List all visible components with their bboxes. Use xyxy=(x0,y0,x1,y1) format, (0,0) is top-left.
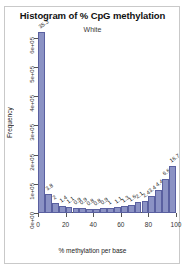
chart-screenshot: Histogram of % CpG methylation White Fre… xyxy=(0,0,185,275)
y-tick-label: 3e+05 xyxy=(29,124,35,141)
y-tick-label: 0e+00 xyxy=(29,212,35,229)
x-tick-mark xyxy=(148,213,149,217)
x-tick-mark xyxy=(176,213,177,217)
histogram-bar xyxy=(107,208,114,213)
histogram-bar xyxy=(155,190,162,213)
histogram-bar xyxy=(162,179,169,213)
histogram-bar xyxy=(148,196,155,213)
y-tick-label: 2e+05 xyxy=(29,154,35,171)
x-tick-label: 100 xyxy=(171,221,182,228)
y-tick-label: 6e+05 xyxy=(29,37,35,54)
x-tick-mark xyxy=(121,213,122,217)
histogram-bar xyxy=(86,209,93,213)
x-tick-label: 40 xyxy=(90,221,97,228)
histogram-bar xyxy=(121,206,128,213)
histogram-bar xyxy=(45,194,52,214)
x-tick-label: 20 xyxy=(62,221,69,228)
bar-series: 35.33.821.41.10.90.90.80.80.911.11.31.62… xyxy=(38,32,176,213)
y-tick-label: 4e+05 xyxy=(29,95,35,112)
bar-value-label: 1 xyxy=(106,199,112,206)
histogram-bar xyxy=(114,207,121,213)
histogram-bar xyxy=(79,208,86,213)
x-tick-mark xyxy=(66,213,67,217)
x-tick-label: 0 xyxy=(36,221,40,228)
histogram-bar xyxy=(59,206,66,213)
plot-area: 35.33.821.41.10.90.90.80.80.911.11.31.62… xyxy=(38,32,176,213)
histogram-bar xyxy=(142,201,149,213)
bar-value-label: 3.8 xyxy=(44,182,54,191)
x-tick-label: 80 xyxy=(145,221,152,228)
histogram-bar xyxy=(128,205,135,213)
histogram-bar xyxy=(100,208,107,213)
y-axis-title: Frequency xyxy=(6,32,13,213)
x-tick-mark xyxy=(93,213,94,217)
chart-title: Histogram of % CpG methylation xyxy=(0,10,185,21)
histogram-bar xyxy=(66,207,73,213)
histogram-bar xyxy=(73,208,80,213)
x-axis-title: % methylation per base xyxy=(0,247,185,254)
y-tick-label: 1e+05 xyxy=(29,183,35,200)
histogram-bar xyxy=(135,202,142,213)
x-tick-label: 60 xyxy=(117,221,124,228)
y-tick-label: 5e+05 xyxy=(29,66,35,83)
histogram-bar xyxy=(93,209,100,213)
bar-value-label: 2 xyxy=(51,194,57,201)
x-tick-mark xyxy=(38,213,39,217)
histogram-bar xyxy=(52,203,59,213)
histogram-bar xyxy=(169,166,176,213)
